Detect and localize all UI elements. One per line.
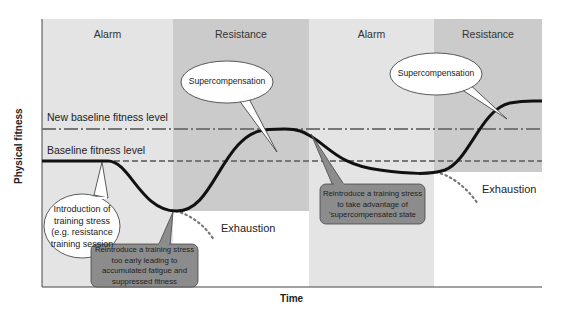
x-axis-title: Time (280, 293, 303, 304)
phase-label-resistance-2: Resistance (434, 28, 542, 40)
take-advantage-line-3: 'supercompensated state (320, 210, 425, 221)
y-axis-title: Physical fitness (13, 108, 24, 184)
take-advantage-text: Reintroduce a training stress to take ad… (320, 189, 425, 221)
too-early-line-1: Reintroduce a training stress (91, 245, 198, 256)
phase-label-resistance-1: Resistance (173, 28, 309, 40)
take-advantage-line-1: Reintroduce a training stress (320, 189, 425, 200)
intro-line-1: Introduction of (44, 204, 120, 216)
phase-region-resistance-1 (173, 19, 309, 211)
too-early-line-2: too early leading to (91, 256, 198, 267)
exhaustion-branch-2 (436, 172, 478, 204)
too-early-text: Reintroduce a training stress too early … (91, 245, 198, 287)
too-early-line-4: suppressed fitness (91, 277, 198, 288)
exhaustion-label-1: Exhaustion (221, 222, 275, 234)
phase-region-resistance-2 (434, 19, 542, 172)
exhaustion-branch-1 (176, 211, 214, 240)
phase-label-alarm-1: Alarm (42, 28, 173, 40)
take-advantage-line-2: to take advantage of (320, 200, 425, 211)
new-baseline-label: New baseline fitness level (47, 111, 168, 123)
introduction-text: Introduction of training stress (e.g. re… (44, 204, 120, 250)
supercompensation-text-2: Supercompensation (390, 68, 482, 78)
too-early-line-3: accumulated fatigue and (91, 266, 198, 277)
exhaustion-label-2: Exhaustion (482, 183, 536, 195)
intro-line-2: training stress (44, 216, 120, 228)
supercompensation-text-1: Supercompensation (181, 76, 273, 86)
intro-line-3: (e.g. resistance (44, 227, 120, 239)
baseline-label: Baseline fitness level (47, 144, 145, 156)
phase-label-alarm-2: Alarm (309, 28, 434, 40)
